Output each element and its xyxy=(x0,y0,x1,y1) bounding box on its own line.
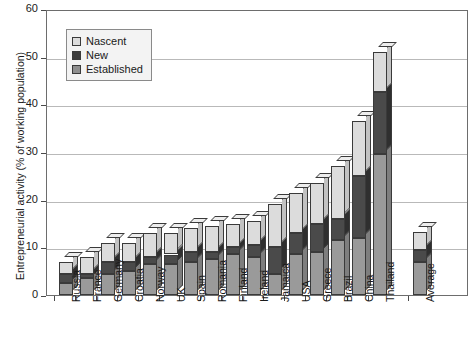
entrepreneurial-activity-chart: Entrepreneurial activity (% of working p… xyxy=(0,0,472,348)
bar-segment-nascent xyxy=(143,233,157,257)
x-tick-label: Greece xyxy=(321,268,333,302)
bar-segment-nascent xyxy=(352,121,366,176)
legend-swatch-new xyxy=(72,51,81,60)
bar-top-face xyxy=(231,214,250,219)
bar-segment-nascent xyxy=(205,226,219,252)
y-tick-mark xyxy=(41,201,46,202)
y-tick-mark xyxy=(41,248,46,249)
x-tick-label: China xyxy=(363,275,375,302)
y-tick-mark xyxy=(41,296,46,297)
bar-segment-new xyxy=(226,247,240,254)
y-tick-label: 40 xyxy=(8,97,38,109)
x-tick-label: Norway xyxy=(154,266,166,302)
bar-segment-new xyxy=(184,252,198,262)
bar-segment-side-new xyxy=(366,166,371,233)
bar-segment-nascent xyxy=(413,232,427,250)
bar-segment-nascent xyxy=(289,193,303,234)
x-tick-label: Spain xyxy=(195,275,207,302)
x-tick-label: Germany xyxy=(112,259,124,302)
y-tick-mark xyxy=(41,153,46,154)
bar-segment-side-nascent xyxy=(324,173,329,219)
bar-top-face xyxy=(378,42,397,47)
x-tick-label: Thailand xyxy=(384,262,396,302)
bar-segment-new xyxy=(289,233,303,254)
legend-swatch-nascent xyxy=(72,37,81,46)
bar-top-face xyxy=(189,218,208,223)
y-tick-label: 20 xyxy=(8,193,38,205)
bar-segment-side-nascent xyxy=(303,183,308,229)
x-tick-label: Croatia xyxy=(133,268,145,302)
bar-top-face xyxy=(64,252,83,257)
x-tick-label: UK xyxy=(175,287,187,302)
bar-segment-nascent xyxy=(268,204,282,247)
bar-segment-nascent xyxy=(247,221,261,245)
bar-segment-side-nascent xyxy=(345,156,350,213)
y-tick-mark xyxy=(41,58,46,59)
legend-label-nascent: Nascent xyxy=(86,35,126,47)
bar-segment-nascent xyxy=(184,228,198,252)
x-tick-label: France xyxy=(91,269,103,302)
bar-segment-nascent xyxy=(310,183,324,224)
bar-segment-new xyxy=(413,250,427,262)
y-tick-mark xyxy=(41,105,46,106)
x-tick-label: Ireland xyxy=(258,270,270,302)
y-tick-label: 50 xyxy=(8,50,38,62)
bar-segment-new xyxy=(143,257,157,264)
bar-segment-new xyxy=(164,255,178,265)
y-tick-label: 0 xyxy=(8,288,38,300)
x-tick-label: Jamaica xyxy=(279,263,291,302)
y-tick-mark xyxy=(41,10,46,11)
x-tick-label: Russia xyxy=(70,270,82,302)
x-tick-mark xyxy=(408,296,409,301)
bar-segment-side-new xyxy=(324,214,329,248)
bar-top-face xyxy=(148,223,167,228)
bar-segment-new xyxy=(373,92,387,154)
bar-segment-side-nascent xyxy=(387,42,392,88)
bar-segment-nascent xyxy=(226,224,240,248)
legend-item-new: New xyxy=(72,48,143,62)
bar-top-face xyxy=(106,233,125,238)
bar-segment-side-nascent xyxy=(366,111,371,171)
bar-segment-new xyxy=(310,224,324,253)
x-tick-label: USA xyxy=(300,280,312,302)
x-tick-label: Average xyxy=(424,263,436,302)
bar-segment-nascent xyxy=(373,52,387,93)
bar-top-face xyxy=(210,216,229,221)
x-tick-label: Brazil xyxy=(342,276,354,302)
legend-swatch-established xyxy=(72,65,81,74)
bar-segment-new xyxy=(352,176,366,238)
legend-item-established: Established xyxy=(72,62,143,76)
bar-segment-side-new xyxy=(387,82,392,149)
legend-item-nascent: Nascent xyxy=(72,34,143,48)
y-tick-label: 60 xyxy=(8,2,38,14)
bar-top-face xyxy=(418,222,437,227)
bar-segment-side-established xyxy=(178,254,183,290)
y-tick-label: 10 xyxy=(8,240,38,252)
bar-segment-new xyxy=(331,219,345,240)
bar-segment-new xyxy=(247,245,261,257)
bar-segment-side-nascent xyxy=(282,194,287,242)
x-tick-label: Finland xyxy=(237,268,249,302)
bar-segment-nascent xyxy=(164,233,178,254)
bar-segment-nascent xyxy=(331,166,345,218)
y-tick-label: 30 xyxy=(8,145,38,157)
legend-label-established: Established xyxy=(86,63,143,75)
legend-label-new: New xyxy=(86,49,108,61)
bar-segment-new xyxy=(205,252,219,259)
x-tick-label: Romania xyxy=(216,260,228,302)
legend: Nascent New Established xyxy=(66,29,152,81)
x-tick-mark xyxy=(54,296,55,301)
